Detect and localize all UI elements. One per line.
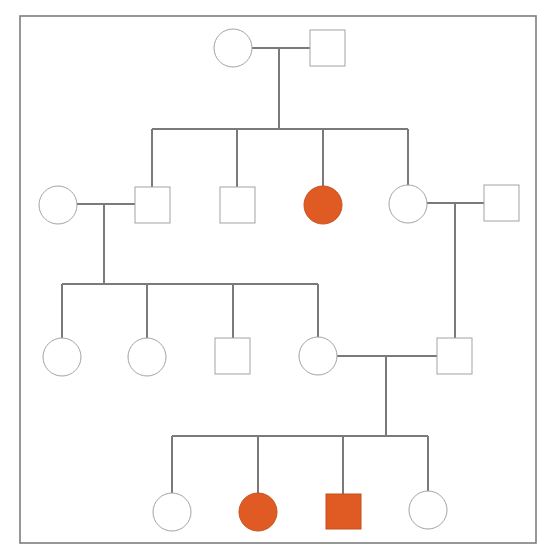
male-symbol-II-3: [220, 187, 255, 223]
female-symbol-III-4: [299, 337, 337, 375]
male-symbol-II-2: [135, 187, 170, 223]
generation-2: [39, 129, 519, 338]
affected-male-symbol-IV-3: [326, 494, 361, 529]
generation-4: [153, 436, 447, 531]
female-symbol-I-1: [214, 29, 252, 67]
male-symbol-III-3: [215, 338, 250, 374]
male-symbol-III-5: [437, 338, 472, 374]
female-symbol-II-5: [389, 185, 427, 223]
affected-female-symbol-IV-2: [239, 493, 277, 531]
male-symbol-II-6: [484, 185, 519, 221]
affected-female-symbol-II-4: [304, 186, 342, 224]
pedigree-diagram: [0, 0, 547, 553]
male-symbol-I-2: [310, 30, 345, 66]
female-symbol-III-2: [128, 338, 166, 376]
generation-3: [43, 284, 472, 436]
female-symbol-II-1: [39, 186, 77, 224]
female-symbol-IV-1: [153, 493, 191, 531]
generation-1: [214, 29, 345, 129]
female-symbol-III-1: [43, 338, 81, 376]
female-symbol-IV-4: [409, 491, 447, 529]
